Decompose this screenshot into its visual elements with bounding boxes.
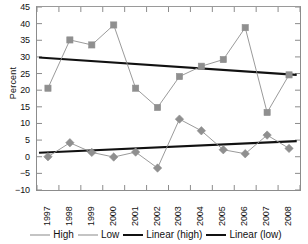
data-point-high — [176, 73, 182, 79]
x-tick-label: 2001 — [130, 190, 140, 226]
data-point-high — [111, 22, 117, 28]
data-point-high — [154, 104, 160, 110]
legend-item-linear-high[interactable]: Linear (high) — [119, 229, 202, 240]
legend-swatch-icon — [123, 231, 143, 239]
data-point-low — [175, 115, 183, 123]
data-point-high — [198, 63, 204, 69]
data-point-high — [286, 72, 292, 78]
data-point-high — [45, 85, 51, 91]
x-tick-label: 2008 — [283, 190, 293, 226]
y-tick-label: −10 — [6, 185, 30, 195]
y-tick-label: 15 — [6, 102, 30, 112]
legend-label: High — [53, 229, 74, 240]
data-point-high — [133, 85, 139, 91]
data-point-high — [242, 25, 248, 31]
series-line-high — [48, 25, 289, 113]
y-tick-label: 35 — [6, 35, 30, 45]
x-tick-label: 2007 — [261, 190, 271, 226]
y-tick-label: 25 — [6, 69, 30, 79]
data-point-low — [110, 153, 118, 161]
data-point-high — [89, 42, 95, 48]
x-axis-tick-labels: 1997199819992000200120022003200420052006… — [36, 192, 301, 226]
x-tick-label: 2004 — [195, 190, 205, 226]
data-point-low — [153, 164, 161, 172]
series-high — [45, 22, 292, 116]
x-tick-label: 2002 — [152, 190, 162, 226]
series-canvas — [37, 7, 300, 190]
data-point-high — [67, 37, 73, 43]
legend-item-low[interactable]: Low — [74, 229, 119, 240]
y-tick-label: −5 — [6, 168, 30, 178]
x-tick-label: 2005 — [217, 190, 227, 226]
y-tick-label: 10 — [6, 118, 30, 128]
tick-marks — [37, 7, 300, 190]
legend-label: Linear (low) — [229, 229, 281, 240]
data-point-high — [264, 109, 270, 115]
y-tick-label: 5 — [6, 135, 30, 145]
legend-swatch-icon — [30, 231, 50, 239]
x-tick-label: 1999 — [86, 190, 96, 226]
cropped-title — [0, 0, 308, 5]
legend-swatch-icon — [78, 231, 98, 239]
y-axis-tick-labels: 454035302520151050−5−10 — [4, 0, 30, 244]
plot-area — [36, 6, 301, 191]
y-tick-label: 30 — [6, 52, 30, 62]
legend-label: Linear (high) — [146, 229, 202, 240]
x-tick-label: 1997 — [42, 190, 52, 226]
chart-container: Percent 454035302520151050−5−10 19971998… — [0, 0, 308, 244]
legend-label: Low — [101, 229, 119, 240]
legend-item-high[interactable]: High — [26, 229, 74, 240]
x-tick-label: 2000 — [108, 190, 118, 226]
legend-swatch-icon — [206, 231, 226, 239]
x-tick-label: 2003 — [173, 190, 183, 226]
y-tick-label: 0 — [6, 152, 30, 162]
y-tick-label: 40 — [6, 19, 30, 29]
y-tick-label: 20 — [6, 85, 30, 95]
data-point-high — [220, 56, 226, 62]
trend-line-linear-high — [39, 58, 297, 75]
data-point-low — [66, 139, 74, 147]
legend-item-linear-low[interactable]: Linear (low) — [202, 229, 281, 240]
y-tick-label: 45 — [6, 2, 30, 12]
data-point-low — [285, 144, 293, 152]
chart-legend: HighLowLinear (high)Linear (low) — [0, 227, 308, 242]
x-tick-label: 1998 — [64, 190, 74, 226]
x-tick-label: 2006 — [239, 190, 249, 226]
data-point-low — [44, 153, 52, 161]
